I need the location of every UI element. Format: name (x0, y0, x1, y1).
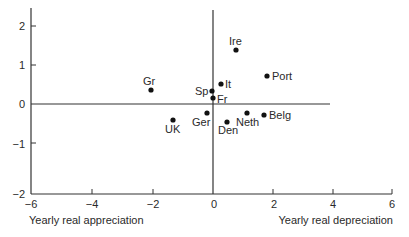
x-tick-label: 6 (389, 198, 395, 210)
x-tick-label: −4 (86, 198, 99, 210)
point-label-belg: Belg (269, 109, 291, 121)
x-tick-label: −2 (147, 198, 160, 210)
point-port (264, 73, 269, 78)
point-ire (233, 47, 238, 52)
x-ticks (92, 189, 392, 194)
point-label-it: It (225, 78, 231, 90)
x-tick-label: 2 (271, 198, 277, 210)
scatter-chart: 2 1 0 −1 −2 −6 −4 −2 0 2 4 6 Yearly real… (0, 0, 409, 237)
point-belg (261, 112, 266, 117)
y-tick-label: 0 (19, 98, 25, 110)
point-label-neth: Neth (236, 116, 259, 128)
point-label-ire: Ire (229, 35, 242, 47)
y-tick-label: −1 (12, 138, 25, 150)
x-tick-label: 0 (211, 198, 217, 210)
data-points (148, 47, 269, 124)
point-ger (204, 110, 209, 115)
point-neth (244, 110, 249, 115)
point-label-uk: UK (165, 123, 181, 135)
x-tick-label: 4 (330, 198, 336, 210)
point-sp (209, 88, 214, 93)
point-label-sp: Sp (195, 85, 208, 97)
point-uk (170, 117, 175, 122)
point-label-gr: Gr (143, 75, 156, 87)
point-fr (210, 95, 215, 100)
y-tick-label: 1 (19, 59, 25, 71)
point-it (218, 81, 223, 86)
x-axis-title-right: Yearly real depreciation (278, 214, 393, 226)
x-axis-title-left: Yearly real appreciation (29, 214, 144, 226)
y-tick-label: −2 (12, 188, 25, 200)
point-label-ger: Ger (192, 116, 211, 128)
point-label-port: Port (272, 70, 292, 82)
x-tick-label: −6 (25, 198, 38, 210)
y-tick-label: 2 (19, 20, 25, 32)
point-gr (148, 87, 153, 92)
point-label-fr: Fr (217, 93, 228, 105)
y-ticks (31, 26, 36, 143)
